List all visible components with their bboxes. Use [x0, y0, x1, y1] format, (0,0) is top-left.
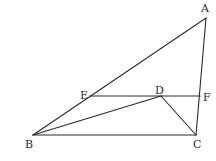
- point-label-b: B: [25, 138, 33, 151]
- segments-group: [33, 18, 206, 135]
- segment-bd: [33, 96, 161, 135]
- point-label-a: A: [200, 2, 210, 15]
- segment-dc: [161, 96, 196, 135]
- point-label-d: D: [155, 84, 164, 97]
- point-label-c: C: [193, 138, 201, 151]
- point-label-e: E: [80, 89, 88, 102]
- triangle-diagram: ABCDEF: [0, 0, 216, 161]
- point-label-f: F: [203, 91, 211, 104]
- segment-ac: [196, 18, 206, 135]
